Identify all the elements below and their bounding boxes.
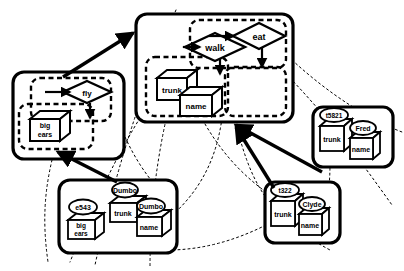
arrow-left-to-top xyxy=(63,33,133,77)
diagram-canvas: walk eat trunk name fly big ea xyxy=(0,0,404,271)
arrow-bottom-to-left xyxy=(58,152,117,182)
arrow-layer xyxy=(0,0,404,271)
